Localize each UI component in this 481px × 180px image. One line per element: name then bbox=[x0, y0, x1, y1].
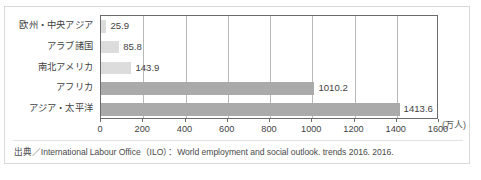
x-axis: 02004006008001000120014001600 bbox=[100, 119, 438, 137]
bar-value-label: 25.9 bbox=[106, 18, 129, 34]
axis-tick bbox=[142, 119, 143, 122]
axis-tick-label: 800 bbox=[261, 123, 276, 135]
source-divider bbox=[13, 140, 463, 141]
axis-tick-label: 1200 bbox=[343, 123, 363, 135]
axis-tick-label: 0 bbox=[97, 123, 102, 135]
unit-label: (万人) bbox=[442, 119, 466, 131]
bar-row: 1010.2 bbox=[101, 78, 437, 99]
bar-value-label: 1010.2 bbox=[314, 80, 347, 96]
category-label: アジア・太平洋 bbox=[29, 98, 93, 119]
bar-row: 25.9 bbox=[101, 16, 437, 37]
bar bbox=[101, 41, 119, 54]
axis-tick bbox=[438, 119, 439, 122]
axis-tick bbox=[269, 119, 270, 122]
bars-layer: 25.985.8143.91010.21413.6 bbox=[101, 16, 437, 118]
bar-row: 143.9 bbox=[101, 58, 437, 79]
plot-area: 25.985.8143.91010.21413.6 bbox=[100, 15, 438, 119]
bar-row: 1413.6 bbox=[101, 99, 437, 120]
bar-chart: 欧州・中央アジアアラブ諸国南北アメリカアフリカアジア・太平洋 25.985.81… bbox=[5, 7, 471, 135]
axis-tick-label: 1400 bbox=[386, 123, 406, 135]
axis-tick bbox=[396, 119, 397, 122]
source-note: 出典／International Labour Office（ILO）：Worl… bbox=[14, 145, 466, 159]
bar bbox=[101, 103, 400, 116]
figure-container: 欧州・中央アジアアラブ諸国南北アメリカアフリカアジア・太平洋 25.985.81… bbox=[4, 6, 470, 164]
category-axis-labels: 欧州・中央アジアアラブ諸国南北アメリカアフリカアジア・太平洋 bbox=[5, 15, 97, 119]
bar bbox=[101, 82, 314, 95]
bar-row: 85.8 bbox=[101, 37, 437, 58]
category-label: アラブ諸国 bbox=[47, 36, 93, 57]
axis-tick bbox=[354, 119, 355, 122]
bar-value-label: 85.8 bbox=[119, 39, 142, 55]
axis-tick-label: 1000 bbox=[301, 123, 321, 135]
axis-tick bbox=[100, 119, 101, 122]
category-label: 南北アメリカ bbox=[38, 57, 93, 78]
axis-tick-label: 400 bbox=[177, 123, 192, 135]
bar-value-label: 1413.6 bbox=[400, 101, 433, 117]
axis-tick bbox=[227, 119, 228, 122]
category-label: アフリカ bbox=[56, 77, 93, 98]
axis-tick bbox=[185, 119, 186, 122]
category-label: 欧州・中央アジア bbox=[19, 15, 93, 36]
bar-value-label: 143.9 bbox=[131, 60, 159, 76]
bar bbox=[101, 62, 131, 75]
axis-tick-label: 200 bbox=[135, 123, 150, 135]
axis-tick-label: 600 bbox=[219, 123, 234, 135]
axis-tick bbox=[311, 119, 312, 122]
